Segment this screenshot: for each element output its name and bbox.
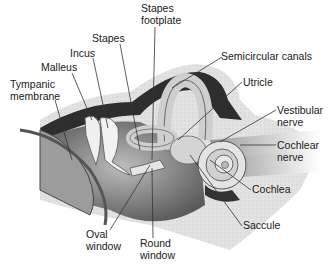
label-semicircular-canals: Semicircular canals (221, 51, 312, 63)
label-vestibular-nerve: Vestibular nerve (277, 105, 323, 128)
label-cochlear-nerve: Cochlear nerve (277, 140, 319, 163)
label-stapes-footplate: Stapes footplate (141, 3, 181, 26)
label-malleus: Malleus (41, 62, 77, 74)
ear-illustration (0, 0, 335, 267)
label-saccule: Saccule (243, 220, 280, 232)
label-oval-window: Oval window (86, 229, 121, 252)
label-incus: Incus (70, 48, 95, 60)
label-tympanic-membrane: Tympanic membrane (10, 79, 60, 102)
label-cochlea: Cochlea (252, 184, 291, 196)
label-round-window: Round window (140, 238, 175, 261)
label-utricle: Utricle (243, 77, 273, 89)
inner-ear-diagram: Stapes footplate Semicircular canals Sta… (0, 0, 335, 267)
label-stapes: Stapes (92, 33, 125, 45)
